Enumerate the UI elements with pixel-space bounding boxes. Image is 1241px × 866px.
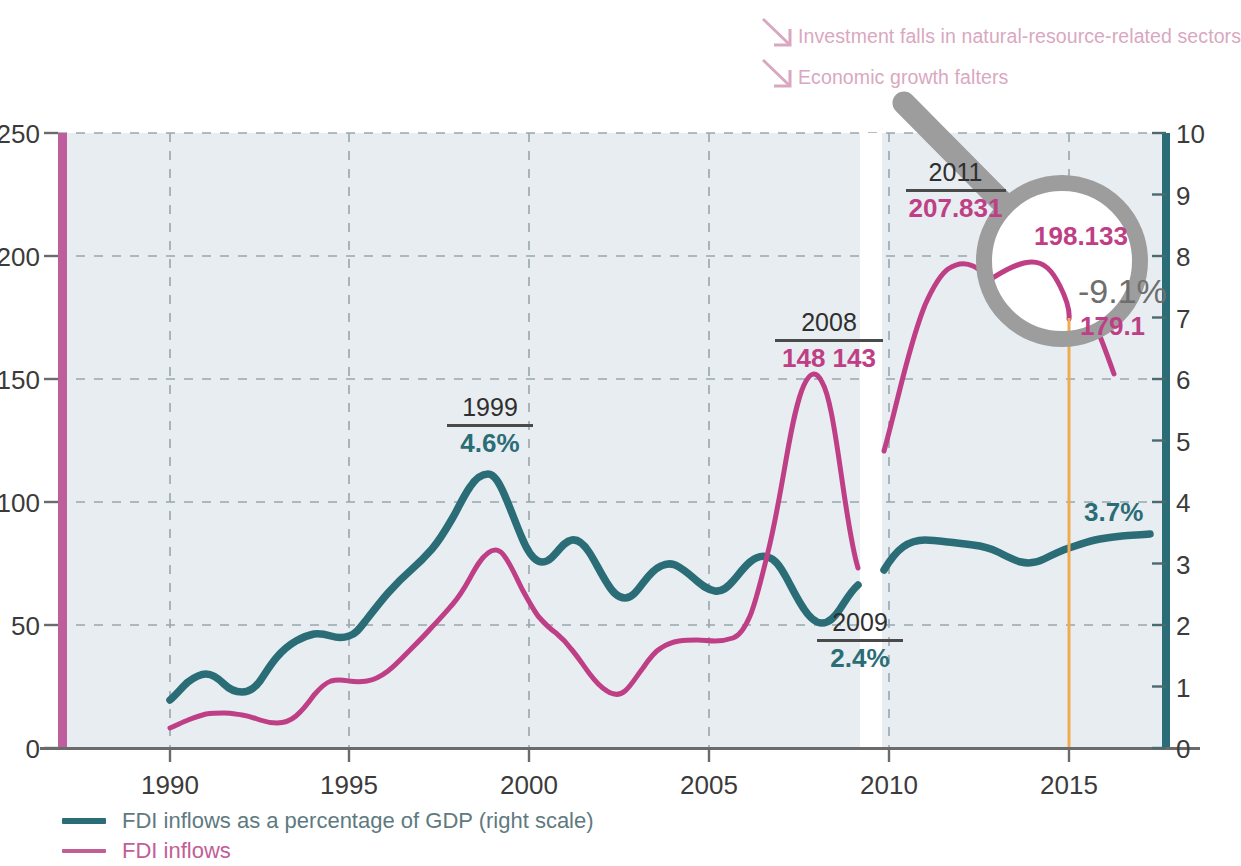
y-axis-right-tick-4: 4 (1176, 488, 1216, 519)
y-axis-right-tick-1: 1 (1176, 673, 1216, 704)
x-axis-tick-2015: 2015 (1024, 770, 1114, 801)
y-axis-left-tick-150: 150 (0, 365, 40, 396)
legend-label-fdi-pct-gdp: FDI inflows as a percentage of GDP (righ… (122, 808, 594, 834)
annotation-1999: 1999 4.6% (425, 394, 555, 458)
annotation-2009-rule (817, 639, 903, 642)
annotation-2009-value: 2.4% (795, 644, 925, 673)
y-axis-right-tick-9: 9 (1176, 181, 1216, 212)
y-axis-right-tick-7: 7 (1176, 304, 1216, 335)
chart-legend: FDI inflows as a percentage of GDP (righ… (62, 806, 594, 866)
legend-swatch-teal (62, 818, 106, 824)
x-axis-tick-2010: 2010 (844, 770, 934, 801)
arrow-down-right-icon-1 (763, 19, 790, 45)
magnifier-top-value: 198.133 (1034, 221, 1128, 252)
y-axis-left-tick-0: 0 (0, 734, 40, 765)
y-axis-right-tick-6: 6 (1176, 365, 1216, 396)
x-axis-ticks (170, 748, 1069, 762)
y-axis-right-tick-8: 8 (1176, 242, 1216, 273)
y-axis-right-tick-0: 0 (1176, 734, 1216, 765)
y-axis-right-tick-10: 10 (1176, 119, 1216, 150)
callout-note-1: Investment falls in natural-resource-rel… (798, 25, 1241, 48)
magnifier-change-value: -9.1% (1078, 272, 1167, 311)
annotation-2008-year: 2008 (749, 309, 909, 335)
arrow-down-right-icon-2 (763, 60, 790, 86)
annotation-2008-value: 148 143 (749, 344, 909, 373)
y-axis-right-tick-5: 5 (1176, 427, 1216, 458)
annotation-2009: 2009 2.4% (795, 609, 925, 673)
annotation-2011-year: 2011 (883, 159, 1028, 185)
y-axis-left-tick-100: 100 (0, 488, 40, 519)
y-axis-left-tick-200: 200 (0, 242, 40, 273)
x-axis-tick-1995: 1995 (304, 770, 394, 801)
x-axis-tick-2005: 2005 (664, 770, 754, 801)
x-axis-tick-1990: 1990 (125, 770, 215, 801)
y-axis-right-tick-3: 3 (1176, 550, 1216, 581)
annotation-1999-value: 4.6% (425, 429, 555, 458)
annotation-2011: 2011 207.831 (883, 159, 1028, 223)
x-axis-tick-2000: 2000 (484, 770, 574, 801)
legend-item-fdi-inflows[interactable]: FDI inflows (62, 836, 594, 866)
legend-label-fdi-inflows: FDI inflows (122, 838, 231, 864)
y-axis-left-bar (58, 133, 67, 748)
legend-swatch-magenta (62, 849, 106, 853)
y-axis-left-ticks (44, 133, 58, 748)
annotation-1999-rule (447, 424, 533, 427)
annotation-2008-rule (775, 339, 883, 342)
y-axis-left-tick-250: 250 (0, 119, 40, 150)
legend-item-fdi-pct-gdp[interactable]: FDI inflows as a percentage of GDP (righ… (62, 806, 594, 836)
callout-note-2: Economic growth falters (798, 66, 1008, 89)
y-axis-right-tick-2: 2 (1176, 611, 1216, 642)
magnifier-bottom-value: 179.1 (1080, 311, 1145, 342)
annotation-2011-rule (906, 189, 1006, 192)
annotation-2011-value: 207.831 (883, 194, 1028, 223)
label-fdi-pct-2015: 3.7% (1084, 497, 1143, 528)
annotation-2008: 2008 148 143 (749, 309, 909, 373)
annotation-2009-year: 2009 (795, 609, 925, 635)
y-axis-left-tick-50: 50 (0, 611, 40, 642)
annotation-1999-year: 1999 (425, 394, 555, 420)
